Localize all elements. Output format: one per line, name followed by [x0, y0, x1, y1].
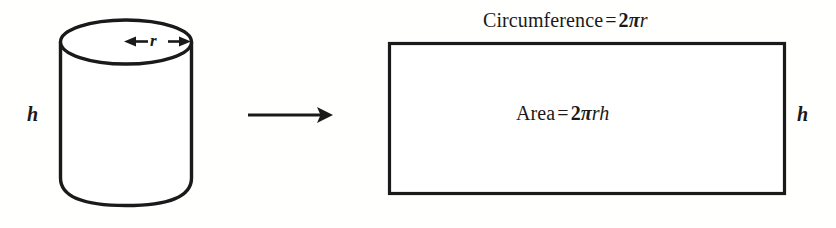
area-formula: Area=2πrh: [516, 103, 609, 123]
area-pi: π: [581, 102, 592, 124]
diagram-vector-layer: [0, 0, 836, 228]
circumference-equals: =: [603, 9, 618, 31]
cylinder-surface-area-figure: h r h Circumference=2πr Area=2πrh: [0, 0, 836, 228]
area-word: Area: [516, 102, 555, 124]
area-coefficient: 2: [571, 102, 581, 124]
circumference-formula: Circumference=2πr: [483, 10, 648, 30]
circumference-variables: r: [640, 9, 648, 31]
area-equals: =: [555, 102, 570, 124]
cylinder-body: [61, 42, 192, 206]
cylinder-height-label: h: [27, 104, 38, 124]
cylinder-radius-label: r: [150, 32, 157, 49]
circumference-pi: π: [629, 9, 640, 31]
circumference-coefficient: 2: [619, 9, 629, 31]
right-arrow-icon: [248, 107, 333, 123]
area-variables: rh: [592, 102, 610, 124]
cylinder-shape: [61, 20, 192, 206]
rectangle-height-label: h: [797, 104, 808, 124]
circumference-word: Circumference: [483, 9, 603, 31]
